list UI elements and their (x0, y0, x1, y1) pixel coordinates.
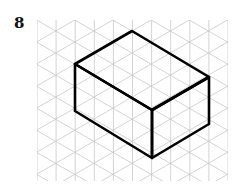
grid-line-diagonal (37, 0, 228, 20)
isometric-figure (0, 0, 243, 187)
grid-line-diagonal (37, 0, 228, 20)
cuboid (75, 31, 209, 158)
isometric-grid (37, 0, 228, 187)
